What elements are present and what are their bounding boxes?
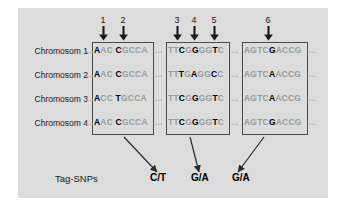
chromosome-label-4: Chromosom 4	[22, 118, 88, 128]
flank-base: AGTC	[244, 93, 269, 103]
snp-base: G	[192, 93, 199, 103]
flank-base: GCCA	[122, 117, 148, 127]
snp-down-arrow-5	[209, 26, 220, 41]
snp-down-arrow-2	[118, 26, 129, 41]
snp-down-arrow-6	[263, 26, 274, 41]
snp-base: G	[269, 45, 276, 55]
ellipsis-right-3-row4: ...	[309, 118, 317, 127]
snp-down-arrow-3	[172, 26, 183, 41]
ellipsis-right-1-row3: ...	[155, 94, 163, 103]
sequence-row-b2-c3: TTCGGGGTC	[168, 94, 229, 103]
ellipsis-right-1-row4: ...	[155, 118, 163, 127]
flank-base: GG	[199, 45, 213, 55]
flank-base: ACCG	[276, 45, 302, 55]
sequence-row-b1-c4: AAC CGCCA	[94, 118, 153, 127]
snp-base: G	[192, 117, 199, 127]
ellipsis-left-1-row1: ...	[86, 46, 94, 55]
flank-base: GCCA	[122, 45, 148, 55]
flank-base: AC	[100, 69, 113, 79]
flank-base: C	[218, 117, 224, 127]
snp-base: G	[192, 45, 199, 55]
flank-base: G	[185, 93, 192, 103]
flank-base: G	[185, 117, 192, 127]
flank-base: ACCG	[276, 117, 302, 127]
tag-snp-value-1: C/T	[150, 172, 166, 183]
snp-number-1: 1	[96, 15, 110, 25]
flank-base: C	[217, 69, 223, 79]
snp-down-arrow-4	[189, 26, 200, 41]
snp-number-2: 2	[116, 15, 130, 25]
snp-number-3: 3	[170, 15, 184, 25]
sequence-row-b1-c2: AAC CGCCA	[94, 70, 153, 79]
snp-number-6: 6	[261, 15, 275, 25]
ellipsis-right-2-row1: ...	[231, 46, 239, 55]
sequence-row-b3-c3: AGTCAACCG	[244, 94, 307, 103]
sequence-row-b2-c4: TTCGGGGTC	[168, 118, 229, 127]
tag-snp-value-3: G/A	[232, 172, 250, 183]
flank-base: C	[218, 45, 224, 55]
ellipsis-right-2-row2: ...	[231, 70, 239, 79]
flank-base: GCCA	[121, 93, 147, 103]
tag-snp-value-2: G/A	[191, 172, 209, 183]
flank-base: AGTC	[244, 69, 269, 79]
flank-base: GG	[199, 117, 213, 127]
snp-base: G	[269, 117, 276, 127]
sequence-row-b1-c3: ACC TGCCA	[94, 94, 153, 103]
ellipsis-right-3-row2: ...	[309, 70, 317, 79]
flank-base: AGTC	[244, 45, 269, 55]
tag-snps-title: Tag-SNPs	[55, 173, 98, 184]
sequence-row-b3-c1: AGTCGACCG	[244, 46, 307, 55]
flank-base: ACCG	[275, 93, 301, 103]
snp-number-4: 4	[187, 15, 201, 25]
ellipsis-right-2-row4: ...	[231, 118, 239, 127]
flank-base: TT	[168, 45, 179, 55]
ellipsis-right-1-row2: ...	[155, 70, 163, 79]
chromosome-label-2: Chromosom 2	[22, 70, 88, 80]
sequence-row-b3-c4: AGTCGACCG	[244, 118, 307, 127]
ellipsis-right-2-row3: ...	[231, 94, 239, 103]
snp-number-5: 5	[207, 15, 221, 25]
snp-down-arrow-1	[98, 26, 109, 41]
figure-root: 123456 Chromosom 1Chromosom 2Chromosom 3…	[0, 0, 346, 207]
flank-base: C	[218, 93, 224, 103]
chromosome-label-3: Chromosom 3	[22, 94, 88, 104]
flank-base: AC	[100, 117, 113, 127]
ellipsis-right-3-row3: ...	[309, 94, 317, 103]
sequence-row-b2-c1: TTCGGGGTC	[168, 46, 229, 55]
flank-base: TT	[168, 93, 179, 103]
flank-base: GG	[199, 93, 213, 103]
flank-base: ACCG	[275, 69, 301, 79]
ellipsis-left-1-row2: ...	[86, 70, 94, 79]
ellipsis-left-1-row4: ...	[86, 118, 94, 127]
flank-base: AC	[100, 45, 113, 55]
flank-base: CC	[100, 93, 113, 103]
ellipsis-left-1-row3: ...	[86, 94, 94, 103]
flank-base: G	[184, 69, 191, 79]
ellipsis-right-1-row1: ...	[155, 46, 163, 55]
chromosome-label-1: Chromosom 1	[22, 46, 88, 56]
sequence-row-b1-c1: AAC CGCCA	[94, 46, 153, 55]
flank-base: GCCA	[122, 69, 148, 79]
flank-base: TT	[168, 69, 179, 79]
ellipsis-right-3-row1: ...	[309, 46, 317, 55]
flank-base: G	[185, 45, 192, 55]
flank-base: TT	[168, 117, 179, 127]
sequence-row-b3-c2: AGTCAACCG	[244, 70, 307, 79]
flank-base: GG	[197, 69, 211, 79]
sequence-row-b2-c2: TTTGAGGCC	[168, 70, 229, 79]
flank-base: AGTC	[244, 117, 269, 127]
